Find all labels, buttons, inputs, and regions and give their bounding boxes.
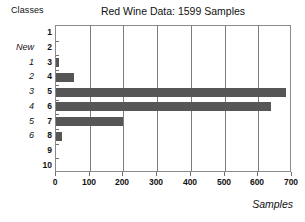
y-tick-label-8: 8	[36, 131, 52, 139]
x-tick-200	[122, 172, 123, 176]
y-tick	[56, 129, 59, 130]
y-tick-label-3: 3	[36, 58, 52, 66]
bars-layer	[56, 26, 290, 171]
y-tick	[56, 55, 59, 56]
x-tick-label-300: 300	[141, 177, 171, 187]
x-tick-label-500: 500	[209, 177, 239, 187]
y-tick	[56, 85, 59, 86]
y-tick-label-7: 7	[36, 117, 52, 125]
bar-class-4	[56, 73, 74, 82]
new-class-label-column: New123456	[8, 25, 34, 172]
y-tick-label-9: 9	[36, 146, 52, 154]
new-class-label-5: 5	[8, 117, 34, 126]
bar-class-5	[56, 88, 286, 97]
x-tick-600	[257, 172, 258, 176]
classes-axis-header: Classes	[11, 5, 44, 15]
y-tick-label-2: 2	[36, 43, 52, 51]
x-tick-label-600: 600	[242, 177, 272, 187]
new-class-label-3: 3	[8, 87, 34, 96]
y-tick-label-10: 10	[36, 161, 52, 169]
y-tick	[56, 158, 59, 159]
y-tick	[56, 70, 59, 71]
x-tick-label-400: 400	[175, 177, 205, 187]
x-tick-0	[55, 172, 56, 176]
x-tick-500	[224, 172, 225, 176]
new-axis-title: New	[8, 43, 34, 52]
bar-class-7	[56, 117, 123, 126]
y-tick-label-6: 6	[36, 102, 52, 110]
x-axis-tick-labels: 0100200300400500600700	[55, 177, 291, 189]
x-axis-title: Samples	[252, 198, 293, 210]
x-tick-label-100: 100	[74, 177, 104, 187]
y-axis-tick-label-column: 12345678910	[35, 25, 52, 172]
y-tick-label-5: 5	[36, 87, 52, 95]
bar-class-8	[56, 132, 62, 141]
new-class-label-6: 6	[8, 131, 34, 140]
y-tick	[56, 100, 59, 101]
x-tick-label-0: 0	[40, 177, 70, 187]
bar-class-6	[56, 102, 271, 111]
x-tick-100	[89, 172, 90, 176]
x-tick-label-700: 700	[276, 177, 305, 187]
bar-class-3	[56, 58, 59, 67]
new-class-label-1: 1	[8, 58, 34, 67]
y-tick	[56, 144, 59, 145]
chart-title: Red Wine Data: 1599 Samples	[55, 5, 291, 17]
x-tick-label-200: 200	[107, 177, 137, 187]
y-tick-label-1: 1	[36, 28, 52, 36]
x-tick-300	[156, 172, 157, 176]
plot-area	[55, 25, 291, 172]
y-tick	[56, 41, 59, 42]
new-class-label-2: 2	[8, 72, 34, 81]
new-class-label-4: 4	[8, 102, 34, 111]
y-tick-label-4: 4	[36, 72, 52, 80]
x-tick-700	[291, 172, 292, 176]
x-tick-400	[190, 172, 191, 176]
y-tick	[56, 114, 59, 115]
